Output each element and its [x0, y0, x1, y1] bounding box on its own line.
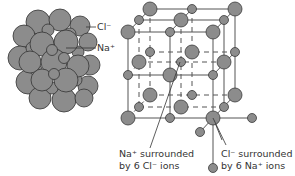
cl-ion-label: Cl⁻ — [97, 21, 111, 32]
close-packed-model — [8, 9, 100, 112]
na-ion-label: Na⁺ — [97, 42, 115, 53]
nacl-diagram: Cl⁻ Na⁺ — [0, 0, 295, 176]
cl-caption-line2: by 6 Na⁺ ions — [221, 160, 285, 171]
lattice-model — [121, 2, 257, 173]
cl-caption-line1: Cl⁻ surrounded — [221, 148, 292, 159]
na-caption-line2: by 6 Cl⁻ ions — [119, 160, 180, 171]
na-caption-line1: Na⁺ surrounded — [119, 148, 194, 159]
